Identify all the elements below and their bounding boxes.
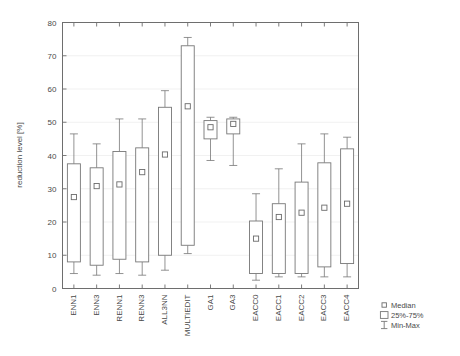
quartile-box — [136, 148, 149, 262]
legend-item-quartiles: 25%-75% — [380, 311, 423, 320]
y-tick-label: 60 — [48, 85, 57, 94]
median-marker — [345, 201, 350, 206]
median-marker — [208, 125, 213, 130]
x-category-label: EACC0 — [251, 294, 260, 321]
median-marker — [299, 210, 304, 215]
legend-label: 25%-75% — [391, 311, 424, 320]
boxplot-eacc4 — [341, 137, 354, 277]
quartile-box — [250, 221, 263, 274]
legend-label: Min-Max — [391, 321, 420, 330]
quartile-box — [67, 164, 80, 262]
quartile-swatch-icon — [380, 312, 388, 319]
quartile-box — [318, 163, 331, 267]
quartile-box — [113, 152, 126, 260]
y-tick-label: 20 — [48, 218, 57, 227]
x-category-label: EACC2 — [297, 294, 306, 321]
x-category-label: MULTIEDIT — [183, 294, 192, 336]
x-category-label: RENN1 — [115, 294, 124, 322]
boxplot-all3nn — [158, 91, 171, 271]
median-marker — [185, 104, 190, 109]
y-tick-label: 80 — [48, 19, 57, 28]
y-tick-label: 70 — [48, 52, 57, 61]
x-category-label: ENN3 — [92, 294, 101, 316]
x-category-label: ENN1 — [69, 294, 78, 316]
x-category-label: GA1 — [206, 294, 215, 311]
x-category-label: RENN3 — [137, 294, 146, 322]
y-tick-label: 40 — [48, 152, 57, 161]
boxplot-chart: reduction level [%] 01020304050607080 EN… — [0, 0, 460, 356]
boxplot-multiedit — [181, 37, 194, 253]
x-category-label: EACC4 — [342, 294, 351, 321]
x-category-label: GA3 — [228, 294, 237, 311]
x-category-label: EACC1 — [274, 294, 283, 321]
y-tick-label: 50 — [48, 118, 57, 127]
quartile-box — [158, 107, 171, 255]
quartile-box — [295, 182, 308, 273]
median-marker — [140, 170, 145, 175]
median-marker — [253, 236, 258, 241]
median-swatch-icon — [382, 303, 386, 307]
y-tick-label: 30 — [48, 185, 57, 194]
median-marker — [322, 205, 327, 210]
median-marker — [231, 121, 236, 126]
median-marker — [117, 182, 122, 187]
median-marker — [71, 194, 76, 199]
y-axis-title: reduction level [%] — [15, 122, 24, 187]
median-marker — [94, 183, 99, 188]
y-tick-label: 10 — [48, 251, 57, 260]
y-tick-label: 0 — [52, 285, 57, 294]
quartile-box — [90, 168, 103, 265]
median-marker — [276, 214, 281, 219]
quartile-box — [181, 46, 194, 246]
legend-label: Median — [391, 301, 416, 310]
median-marker — [162, 152, 167, 157]
x-category-label: ALL3NN — [160, 294, 169, 324]
x-category-label: EACC3 — [319, 294, 328, 321]
